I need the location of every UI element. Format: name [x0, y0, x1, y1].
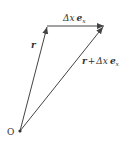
- vector-diagram: O r Δxex r+Δxex: [0, 0, 132, 150]
- origin-label: O: [7, 127, 14, 137]
- origin-point: [18, 129, 21, 132]
- label-r-plus-delta-x-ex: r+Δxex: [82, 56, 120, 67]
- label-r: r: [31, 40, 37, 50]
- label-delta-x-ex: Δxex: [62, 13, 86, 24]
